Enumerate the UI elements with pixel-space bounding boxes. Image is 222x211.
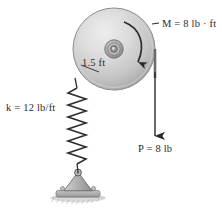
pin-support-group	[50, 169, 106, 204]
force-label: P = 8 lb	[138, 143, 172, 154]
mechanics-figure: M = 8 lb · ft k = 12 lb/ft 1.5 ft P = 8 …	[0, 0, 222, 211]
support-bolt-left	[60, 187, 64, 191]
moment-label: M = 8 lb · ft	[162, 18, 216, 29]
hub-axle-highlight	[112, 47, 115, 50]
radius-label: 1.5 ft	[82, 57, 105, 68]
support-base-plate	[56, 191, 100, 198]
support-bolt-right	[91, 187, 95, 191]
spring-coils	[68, 88, 86, 164]
spring-upper-lead	[75, 78, 77, 88]
spring-stiffness-label: k = 12 lb/ft	[6, 102, 55, 113]
moment-label-leader	[152, 23, 159, 24]
pulley-disk	[73, 8, 155, 90]
coil-spring-icon	[68, 78, 86, 172]
